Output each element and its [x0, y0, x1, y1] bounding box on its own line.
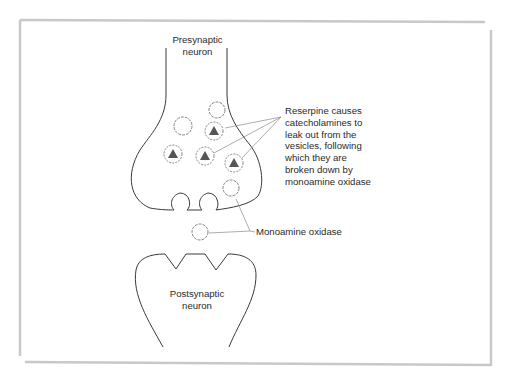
figure-frame [20, 20, 491, 366]
presynaptic-label: Presynaptic neuron [160, 34, 235, 58]
presynaptic-terminal [131, 48, 261, 210]
postsynaptic-label: Postsynaptic neuron [158, 288, 236, 312]
callout-lines [209, 117, 281, 233]
mao-enzymes [174, 102, 239, 240]
synapse-diagram [0, 0, 513, 386]
mao-label: Monoamine oxidase [256, 226, 342, 238]
reserpine-note: Reserpine causes catecholamines to leak … [285, 105, 371, 188]
